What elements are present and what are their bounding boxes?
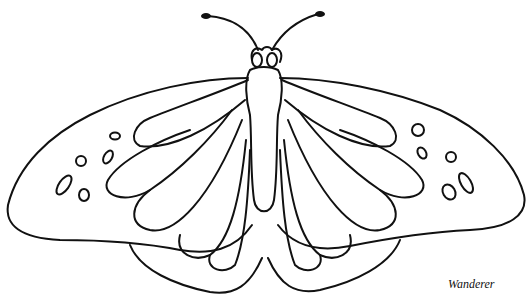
- thorax-abdomen: [246, 67, 282, 211]
- right-wing: [268, 78, 525, 291]
- butterfly-drawing: [0, 0, 529, 302]
- left-wing: [8, 78, 262, 293]
- head: [252, 47, 282, 67]
- caption: Wanderer: [448, 277, 494, 292]
- antennae: [201, 11, 325, 50]
